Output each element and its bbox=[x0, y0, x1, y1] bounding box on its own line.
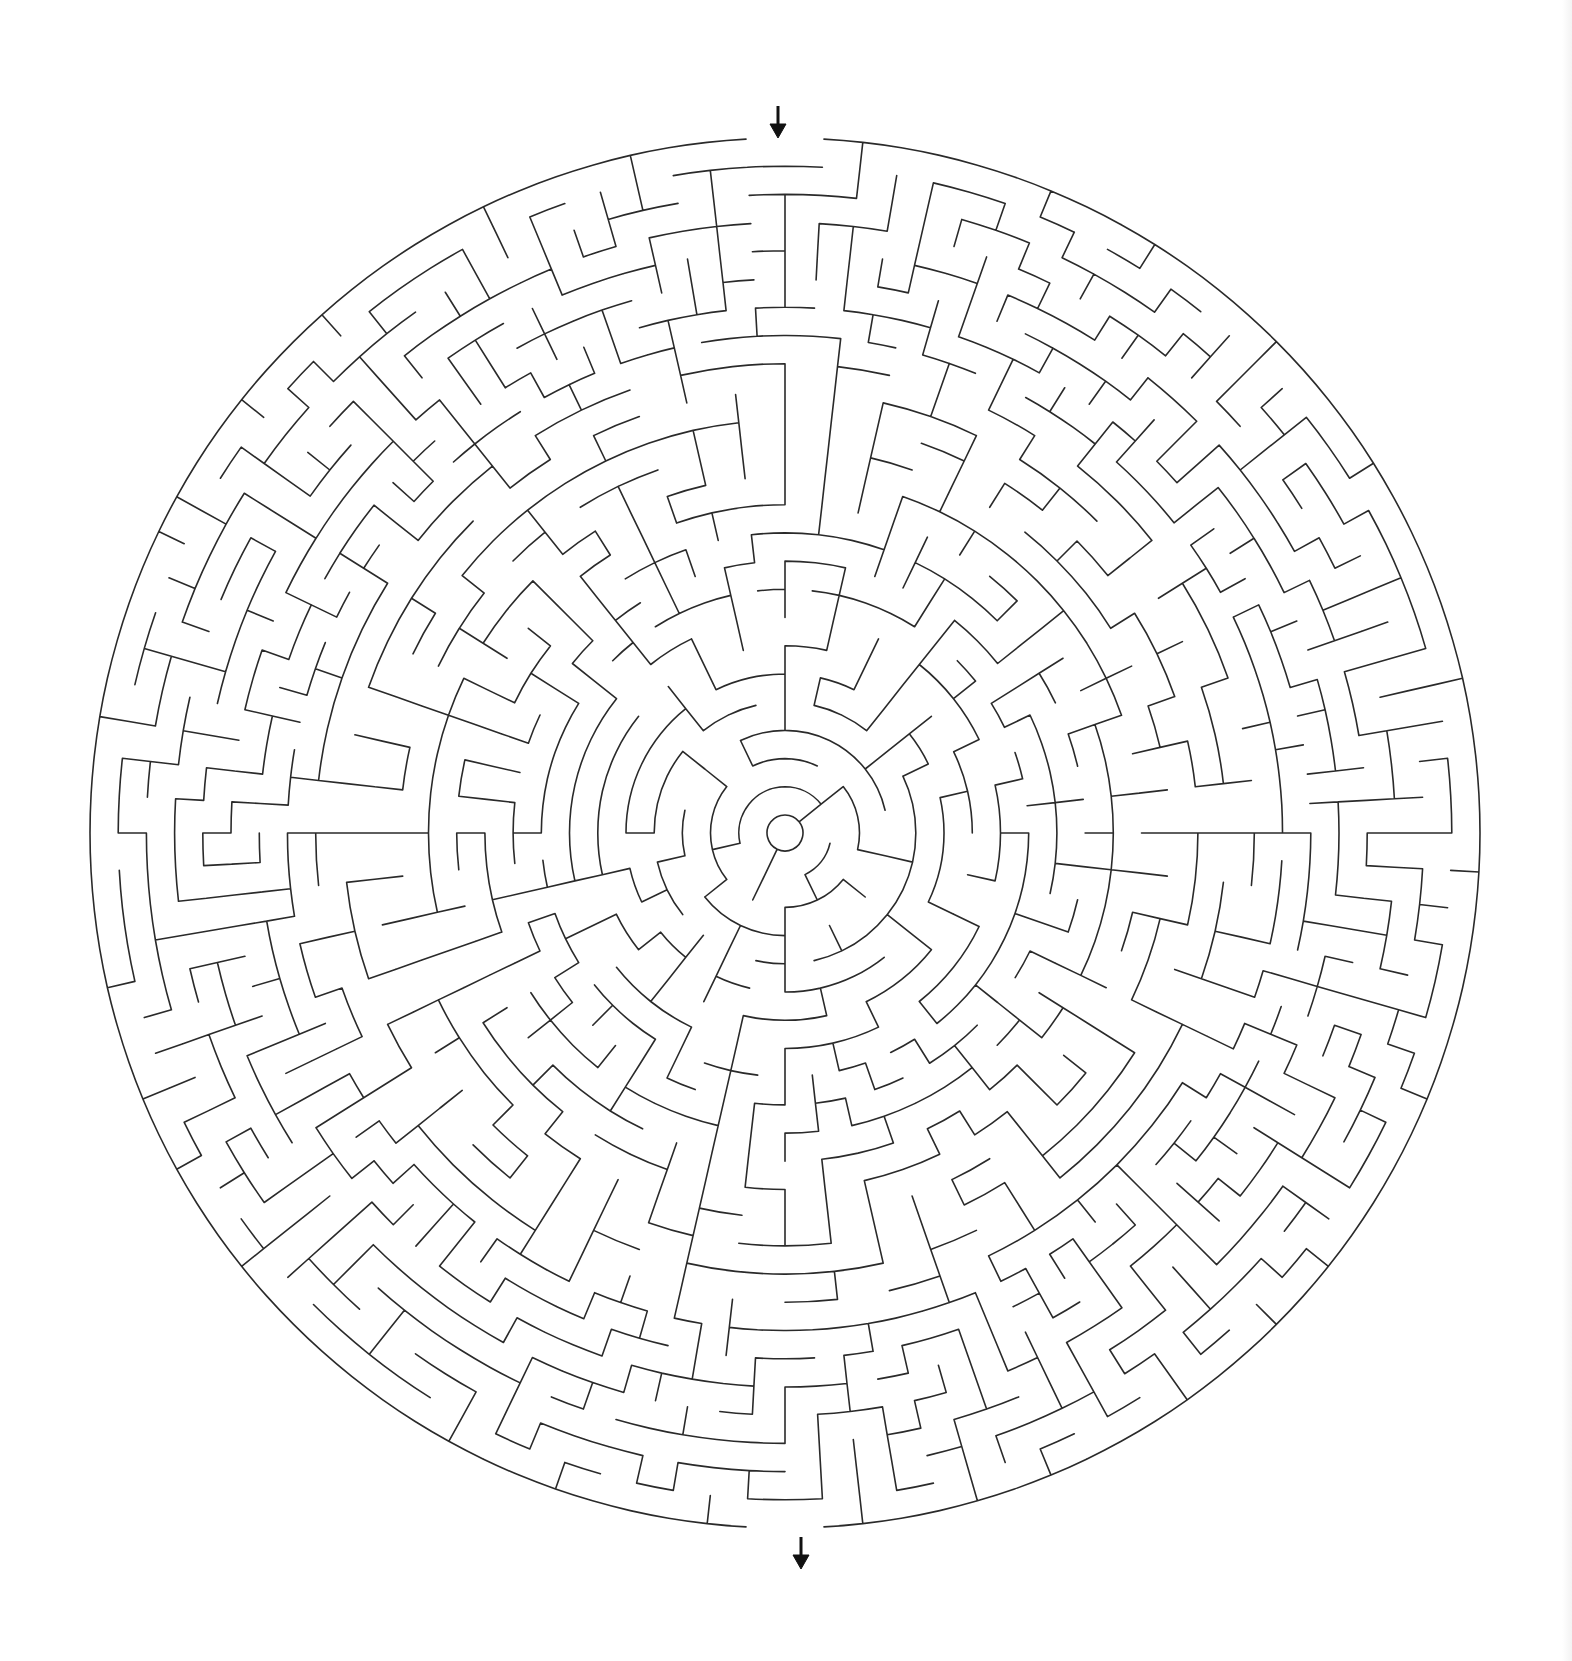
circular-maze bbox=[0, 0, 1572, 1661]
page-edge-shadow bbox=[1562, 0, 1572, 1661]
maze-walls bbox=[90, 139, 1480, 1527]
entrance-arrow-icon bbox=[770, 106, 786, 138]
exit-arrow-icon bbox=[793, 1537, 809, 1569]
